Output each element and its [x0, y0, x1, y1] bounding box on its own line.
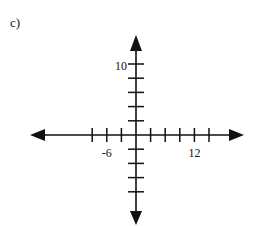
- up-arrow-icon: [130, 35, 142, 51]
- left-arrow-icon: [30, 129, 45, 141]
- down-arrow-icon: [130, 211, 142, 225]
- figure-label: c): [10, 15, 20, 30]
- x-tick-label-12: 12: [188, 146, 200, 160]
- x-tick-label-neg-6: -6: [102, 146, 112, 160]
- right-arrow-icon: [229, 129, 244, 141]
- coordinate-plane-figure: c) -6 12 10: [0, 0, 262, 226]
- y-tick-label-10: 10: [115, 59, 127, 73]
- x-axis: -6 12: [30, 128, 244, 160]
- y-axis: 10: [115, 35, 144, 225]
